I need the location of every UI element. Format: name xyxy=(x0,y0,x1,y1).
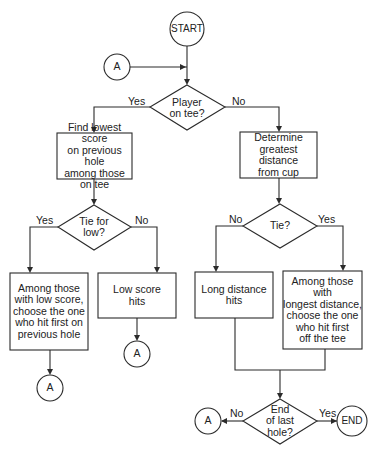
player-yes-label: Yes xyxy=(128,96,145,107)
connector-a-left: A xyxy=(37,377,63,399)
arrow-icon xyxy=(47,369,53,375)
tie-yes-label: Yes xyxy=(318,214,335,225)
arrow-icon xyxy=(184,79,190,85)
player-no-label: No xyxy=(232,96,245,107)
tielow-yes-label: Yes xyxy=(36,215,53,226)
low-score-hits-label: Low score hits xyxy=(98,273,176,318)
tie-no-label: No xyxy=(229,214,242,225)
arrow-icon xyxy=(91,199,97,205)
end-yes-label: Yes xyxy=(319,408,336,419)
end-no-label: No xyxy=(230,408,243,419)
among-longest-label: Among those with longest distance, choos… xyxy=(283,271,362,349)
player-on-tee-label: Player on tee? xyxy=(155,94,219,122)
end-of-last-hole-label: End of last hole? xyxy=(252,403,308,439)
determine-distance-label: Determine greatest distance from cup xyxy=(240,132,317,178)
end-node: END xyxy=(337,410,367,432)
tie-for-low-label: Tie for low? xyxy=(64,214,124,240)
long-distance-hits-label: Long distance hits xyxy=(195,272,273,318)
start-node: START xyxy=(170,18,204,40)
arrow-icon xyxy=(276,198,282,204)
flowchart: START A Player on tee? Find lowest score… xyxy=(0,0,371,449)
arrow-icon xyxy=(277,393,283,399)
tie-label: Tie? xyxy=(250,215,310,237)
connector-a-top: A xyxy=(104,56,130,78)
arrow-icon xyxy=(221,418,227,424)
arrow-icon xyxy=(180,64,186,70)
find-lowest-label: Find lowest score on previous hole among… xyxy=(57,133,132,179)
tielow-no-label: No xyxy=(135,215,148,226)
arrow-icon xyxy=(134,335,140,341)
among-low-score-label: Among those with low score, choose the o… xyxy=(10,273,88,350)
connector-a-mid: A xyxy=(124,343,150,365)
connector-a-bottom: A xyxy=(195,410,221,432)
